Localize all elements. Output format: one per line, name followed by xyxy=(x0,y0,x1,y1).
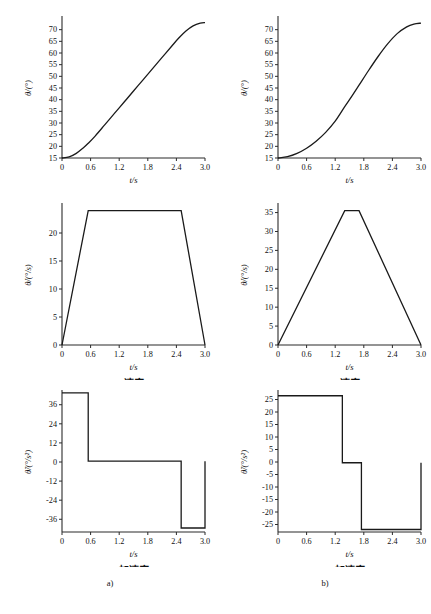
y-tick-label: 35 xyxy=(49,107,57,116)
chart-b-acceleration: 2520151050-5-10-15-20-2500.61.21.82.43.0… xyxy=(216,382,431,567)
chart-a-velocity: 0510152000.61.21.82.43.0θ̇/(°/s)t/s速度 xyxy=(0,195,215,380)
x-axis-title: t/s xyxy=(129,362,138,372)
chart-b-position-svg: 15202530354045505560657000.61.21.82.43.0… xyxy=(216,8,431,188)
y-tick-label: -10 xyxy=(262,483,273,492)
y-tick-label: 15 xyxy=(49,257,57,266)
y-tick-label: 60 xyxy=(49,49,57,58)
x-tick-label: 2.4 xyxy=(171,163,181,172)
x-tick-label: 1.8 xyxy=(359,537,369,546)
x-tick-label: 3.0 xyxy=(200,163,210,172)
y-axis-title: θ̈/(°/s²) xyxy=(23,450,33,474)
y-tick-label: 30 xyxy=(49,119,57,128)
x-axis-title: t/s xyxy=(129,549,138,559)
panel-caption: 速度 xyxy=(340,377,361,380)
y-tick-label: -15 xyxy=(262,495,273,504)
panel-caption: 速度 xyxy=(124,377,145,380)
svg-text:θ/(°): θ/(°) xyxy=(239,80,249,96)
y-tick-label: 25 xyxy=(265,395,273,404)
panel-caption: 加速度 xyxy=(118,564,150,567)
x-tick-label: 0.6 xyxy=(85,350,95,359)
y-tick-label: 10 xyxy=(265,303,273,312)
y-tick-label: 5 xyxy=(269,445,273,454)
x-axis-title: t/s xyxy=(345,549,354,559)
y-tick-label: -5 xyxy=(266,470,273,479)
x-tick-label: 2.4 xyxy=(171,537,181,546)
y-tick-label: 45 xyxy=(265,84,273,93)
x-tick-label: 1.8 xyxy=(143,350,153,359)
y-tick-label: 15 xyxy=(49,154,57,163)
x-tick-label: 3.0 xyxy=(200,537,210,546)
svg-text:θ/(°): θ/(°) xyxy=(23,80,33,96)
x-tick-label: 0.6 xyxy=(301,537,311,546)
x-tick-label: 0.6 xyxy=(85,163,95,172)
chart-b-velocity-svg: 0510152025303500.61.21.82.43.0θ̇/(°/s)t/… xyxy=(216,195,431,380)
x-tick-label: 3.0 xyxy=(416,537,426,546)
y-tick-label: 15 xyxy=(265,154,273,163)
y-axis-title: θ̇/(°/s) xyxy=(23,264,33,286)
chart-a-acceleration-svg: 3624120-12-24-3600.61.21.82.43.0θ̈/(°/s²… xyxy=(0,382,215,567)
y-tick-label: 20 xyxy=(265,408,273,417)
x-axis-title: t/s xyxy=(129,175,138,185)
x-tick-label: 0 xyxy=(60,350,64,359)
y-tick-label: 65 xyxy=(49,37,57,46)
y-tick-label: 35 xyxy=(265,107,273,116)
y-tick-label: 25 xyxy=(265,246,273,255)
y-tick-label: 36 xyxy=(49,400,57,409)
y-tick-label: 15 xyxy=(265,284,273,293)
y-tick-label: 24 xyxy=(49,420,57,429)
y-tick-label: 20 xyxy=(49,142,57,151)
y-tick-label: 10 xyxy=(265,433,273,442)
x-tick-label: 1.8 xyxy=(359,163,369,172)
y-tick-label: 40 xyxy=(49,95,57,104)
x-tick-label: 1.8 xyxy=(143,163,153,172)
series-line xyxy=(62,23,205,158)
x-axis-title: t/s xyxy=(345,175,354,185)
y-tick-label: 20 xyxy=(49,229,57,238)
x-tick-label: 0 xyxy=(276,163,280,172)
y-tick-label: 35 xyxy=(265,208,273,217)
x-tick-label: 2.4 xyxy=(171,350,181,359)
x-tick-label: 1.2 xyxy=(114,350,124,359)
x-tick-label: 3.0 xyxy=(416,350,426,359)
series-line xyxy=(62,393,205,528)
series-line xyxy=(278,23,421,158)
x-tick-label: 1.2 xyxy=(330,163,340,172)
y-tick-label: 55 xyxy=(265,60,273,69)
x-tick-label: 0.6 xyxy=(301,163,311,172)
chart-a-position: 15202530354045505560657000.61.21.82.43.0… xyxy=(0,8,215,188)
y-tick-label: 70 xyxy=(49,25,57,34)
y-tick-label: 10 xyxy=(49,285,57,294)
svg-text:θ̇/(°/s): θ̇/(°/s) xyxy=(239,264,249,286)
y-axis-title: θ̈/(°/s²) xyxy=(239,450,249,474)
y-tick-label: -36 xyxy=(46,515,57,524)
y-tick-label: 0 xyxy=(269,341,273,350)
x-tick-label: 0 xyxy=(276,537,280,546)
panel-caption: 加速度 xyxy=(334,564,366,567)
y-tick-label: -25 xyxy=(262,520,273,529)
motion-profile-figure: 15202530354045505560657000.61.21.82.43.0… xyxy=(0,0,431,614)
svg-text:θ̈/(°/s²): θ̈/(°/s²) xyxy=(239,450,249,474)
chart-b-position: 15202530354045505560657000.61.21.82.43.0… xyxy=(216,8,431,188)
x-tick-label: 3.0 xyxy=(200,350,210,359)
subfigure-label-b: b) xyxy=(305,578,345,588)
x-tick-label: 0 xyxy=(60,163,64,172)
x-tick-label: 3.0 xyxy=(416,163,426,172)
y-tick-label: 20 xyxy=(265,265,273,274)
y-tick-label: 5 xyxy=(53,313,57,322)
y-tick-label: 12 xyxy=(49,439,57,448)
y-axis-title: θ̇/(°/s) xyxy=(239,264,249,286)
y-tick-label: 5 xyxy=(269,322,273,331)
chart-a-acceleration: 3624120-12-24-3600.61.21.82.43.0θ̈/(°/s²… xyxy=(0,382,215,567)
y-tick-label: -24 xyxy=(46,496,57,505)
y-tick-label: 25 xyxy=(49,130,57,139)
svg-text:θ̇/(°/s): θ̇/(°/s) xyxy=(23,264,33,286)
y-tick-label: 15 xyxy=(265,420,273,429)
x-tick-label: 1.2 xyxy=(114,537,124,546)
y-tick-label: 0 xyxy=(269,458,273,467)
y-tick-label: 45 xyxy=(49,84,57,93)
series-line xyxy=(278,211,421,345)
y-tick-label: 20 xyxy=(265,142,273,151)
x-axis-title: t/s xyxy=(345,362,354,372)
y-tick-label: 60 xyxy=(265,49,273,58)
y-tick-label: 30 xyxy=(265,119,273,128)
